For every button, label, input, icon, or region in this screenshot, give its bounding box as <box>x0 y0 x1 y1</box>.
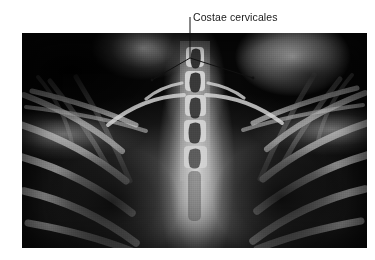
radiograph-image <box>22 33 367 248</box>
film-vignette <box>22 33 367 248</box>
figure-chest-radiograph: Costae cervicales <box>0 0 375 260</box>
annotation-label-costae-cervicales: Costae cervicales <box>193 11 278 23</box>
